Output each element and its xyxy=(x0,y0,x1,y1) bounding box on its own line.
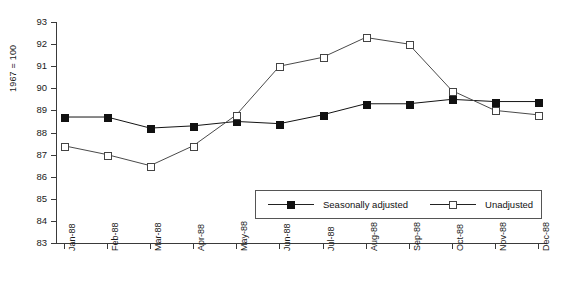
y-axis-tick xyxy=(51,44,57,45)
y-axis-tick xyxy=(51,22,57,23)
x-axis-tick xyxy=(64,243,65,249)
x-axis-tick-label: Feb-88 xyxy=(111,222,120,251)
data-point xyxy=(61,114,69,122)
legend-item-unadjusted: Unadjusted xyxy=(430,199,533,210)
x-axis-tick xyxy=(409,243,410,249)
y-axis-tick xyxy=(51,66,57,67)
x-axis-tick xyxy=(452,243,453,249)
series-line-seasonally-adjusted xyxy=(64,99,538,128)
legend-label-seasonally-adjusted: Seasonally adjusted xyxy=(323,199,408,210)
data-point xyxy=(61,143,69,151)
data-point xyxy=(363,34,371,42)
x-axis-tick-label: Oct-88 xyxy=(456,224,465,251)
y-axis-tick xyxy=(51,199,57,200)
legend-item-seasonally-adjusted: Seasonally adjusted xyxy=(268,199,408,210)
y-axis-tick-label: 93 xyxy=(23,17,47,27)
y-axis-tick xyxy=(51,155,57,156)
y-axis-tick-label: 83 xyxy=(23,238,47,248)
data-point xyxy=(276,63,284,71)
x-axis-tick-label: Mar-88 xyxy=(154,222,163,251)
data-point xyxy=(449,96,457,104)
x-axis-tick xyxy=(236,243,237,249)
y-axis-tick-label: 84 xyxy=(23,216,47,226)
x-axis-tick xyxy=(107,243,108,249)
x-axis-tick xyxy=(150,243,151,249)
data-point xyxy=(190,143,198,151)
x-axis-tick-label: Jul-88 xyxy=(327,226,336,251)
y-axis-tick-label: 89 xyxy=(23,105,47,115)
x-axis-tick xyxy=(323,243,324,249)
y-axis-tick-label: 87 xyxy=(23,150,47,160)
data-point xyxy=(104,114,112,122)
legend-swatch-seasonally-adjusted xyxy=(268,204,314,205)
data-point xyxy=(492,99,500,107)
x-axis-tick-label: Jan-88 xyxy=(68,223,77,251)
data-point xyxy=(104,152,112,160)
x-axis-tick-label: Jun-88 xyxy=(283,223,292,251)
data-point xyxy=(449,88,457,96)
y-axis-tick-label: 92 xyxy=(23,39,47,49)
y-axis-tick-label: 90 xyxy=(23,83,47,93)
data-point xyxy=(363,101,371,109)
x-axis-tick xyxy=(366,243,367,249)
legend-swatch-unadjusted xyxy=(430,204,476,205)
x-axis-tick-label: Sep-88 xyxy=(413,222,422,251)
series-line-unadjusted xyxy=(64,37,538,165)
data-point xyxy=(406,41,414,49)
y-axis-tick xyxy=(51,110,57,111)
data-point xyxy=(190,123,198,131)
y-axis-tick-label: 86 xyxy=(23,172,47,182)
chart-legend: Seasonally adjusted Unadjusted xyxy=(255,190,542,219)
y-axis-tick-label: 91 xyxy=(23,61,47,71)
data-point xyxy=(492,107,500,115)
x-axis-tick-label: Dec-88 xyxy=(542,222,551,251)
y-axis-tick xyxy=(51,133,57,134)
data-point xyxy=(276,121,284,129)
x-axis-tick xyxy=(538,243,539,249)
y-axis-title: 1967 = 100 xyxy=(8,2,18,92)
data-point xyxy=(535,112,543,120)
x-axis-tick xyxy=(279,243,280,249)
data-point xyxy=(147,163,155,171)
data-point xyxy=(535,99,543,107)
y-axis-tick-label: 85 xyxy=(23,194,47,204)
x-axis-tick xyxy=(193,243,194,249)
legend-label-unadjusted: Unadjusted xyxy=(485,199,533,210)
x-axis-tick-label: Apr-88 xyxy=(197,224,206,251)
x-axis-tick xyxy=(495,243,496,249)
y-axis-tick xyxy=(51,243,57,244)
data-point xyxy=(147,125,155,133)
x-axis-tick-label: Aug-88 xyxy=(370,222,379,251)
data-point xyxy=(320,54,328,62)
y-axis-tick-label: 88 xyxy=(23,128,47,138)
data-point xyxy=(233,112,241,120)
y-axis-tick xyxy=(51,177,57,178)
x-axis-tick-label: Nov-88 xyxy=(499,222,508,251)
data-point xyxy=(320,112,328,120)
y-axis-tick xyxy=(51,221,57,222)
data-point xyxy=(406,101,414,109)
line-chart: 1967 = 100 Seasonally adjusted Unadjuste… xyxy=(0,0,562,293)
y-axis-tick xyxy=(51,88,57,89)
x-axis-tick-label: May-88 xyxy=(240,221,249,251)
